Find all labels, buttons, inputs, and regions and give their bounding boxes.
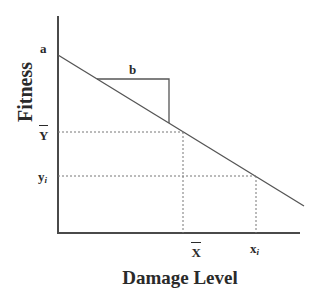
regression-line <box>58 55 304 206</box>
fitness-damage-diagram: a b Y yi X xi Fitness Damage Level <box>0 0 321 300</box>
x-i-label-sub: i <box>257 247 260 257</box>
y-mean-label: Y <box>39 129 48 142</box>
y-i-label-sub: i <box>45 175 48 185</box>
intercept-label: a <box>40 42 47 55</box>
x-axis-title: Damage Level <box>122 268 238 287</box>
diagram-canvas <box>0 0 321 300</box>
x-i-label: xi <box>250 242 259 257</box>
slope-label: b <box>129 63 136 76</box>
y-axis-title: Fitness <box>15 62 35 122</box>
y-i-label: yi <box>38 170 47 185</box>
x-mean-label: X <box>191 246 200 259</box>
